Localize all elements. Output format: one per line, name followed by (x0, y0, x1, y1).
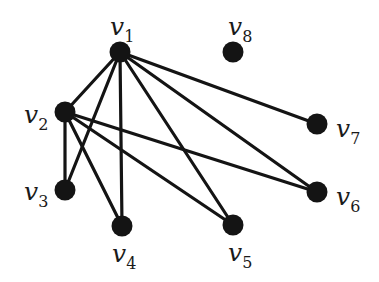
node-v4 (112, 216, 133, 237)
node-v3 (55, 180, 76, 201)
node-v2 (55, 102, 76, 123)
node-v8 (223, 42, 244, 63)
node-v6 (307, 182, 328, 203)
graph-diagram: v1v2v3v4v5v6v7v8 (0, 0, 379, 282)
node-v5 (223, 215, 244, 236)
edge-v1-v4 (120, 52, 122, 226)
background (0, 0, 379, 282)
node-v7 (307, 114, 328, 135)
